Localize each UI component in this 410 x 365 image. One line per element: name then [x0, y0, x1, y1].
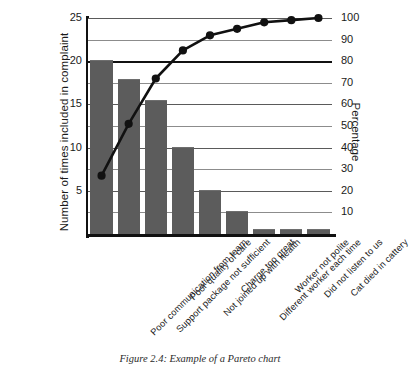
y-tick-label-left: 15	[56, 98, 82, 109]
y-tick-label-right: 50	[341, 120, 371, 131]
y-tick-label-right: 90	[341, 34, 371, 45]
cumulative-line	[102, 18, 319, 176]
data-point-marker	[206, 31, 214, 39]
figure-caption: Figure 2.4: Example of a Pareto chart	[0, 353, 400, 364]
y-tick-label-right: 80	[341, 55, 371, 66]
data-point-marker	[314, 14, 322, 22]
y-tick-label-left: 5	[56, 185, 82, 196]
y-tick-label-left: 25	[56, 12, 82, 23]
y-tick-label-right: 10	[341, 206, 371, 217]
data-point-marker	[125, 120, 133, 128]
data-point-marker	[179, 46, 187, 54]
y-tick-label-right: 70	[341, 77, 371, 88]
data-point-marker	[152, 74, 160, 82]
y-tick-label-left: 10	[56, 142, 82, 153]
cumulative-line-series	[88, 18, 332, 234]
plot-area	[88, 18, 332, 234]
x-axis-line	[86, 234, 336, 237]
y-tick-label-right: 60	[341, 98, 371, 109]
y-tick-label-right: 40	[341, 142, 371, 153]
y-tick-label-right: 30	[341, 163, 371, 174]
data-point-marker	[97, 172, 105, 180]
data-point-marker	[287, 16, 295, 24]
data-point-marker	[260, 18, 268, 26]
data-point-marker	[233, 25, 241, 33]
y-tick-label-right: 20	[341, 185, 371, 196]
y-tick-label-left: 20	[56, 55, 82, 66]
y-tick-label-right: 100	[341, 12, 371, 23]
